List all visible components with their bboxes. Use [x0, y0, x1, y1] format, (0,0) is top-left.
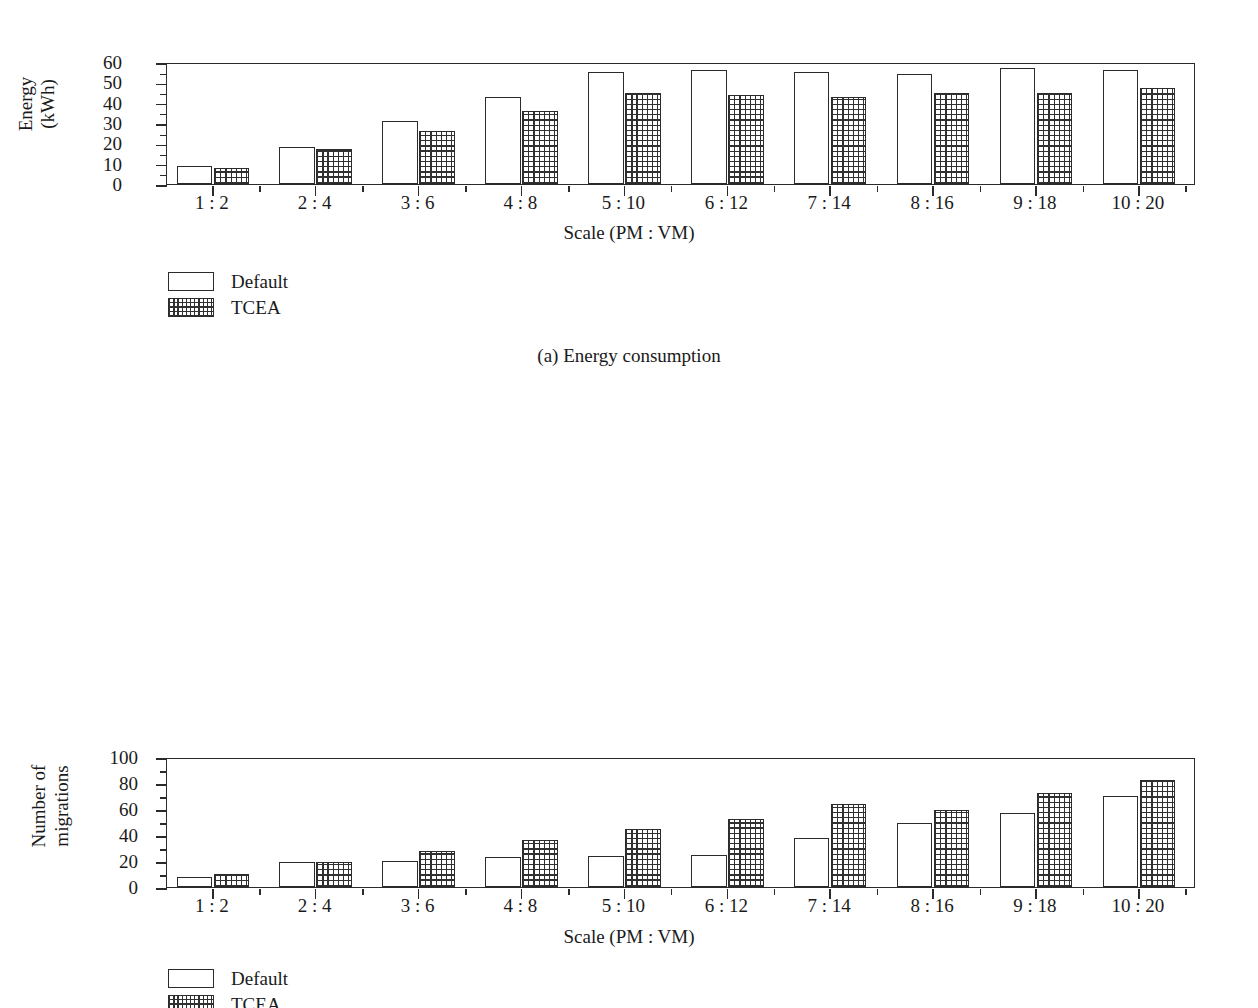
panel-c-number-of-host-shutdowns: Number of host shutdowns 010203040506070… [0, 680, 1258, 1008]
bar-tcea [831, 97, 867, 184]
x-ticklabel: 7 : 14 [808, 192, 851, 214]
bar-tcea [522, 111, 558, 184]
y-tick-minor [160, 94, 167, 95]
y-tick-major [156, 104, 167, 106]
y-ticklabel: 40 [103, 93, 122, 115]
y-ticklabel: 20 [103, 133, 122, 155]
y-ticklabels-a: 0102030405060 [60, 60, 122, 185]
legend-a: Default TCEA [168, 270, 288, 322]
bar-tcea [728, 95, 764, 184]
y-tick-major [156, 84, 167, 86]
bar-default [588, 72, 624, 184]
y-tick-minor [160, 175, 167, 176]
bar-tcea [625, 93, 661, 185]
y-tick-minor [160, 114, 167, 115]
x-ticklabel: 2 : 4 [298, 192, 332, 214]
x-ticklabel: 9 : 18 [1013, 192, 1056, 214]
bar-tcea [214, 168, 250, 184]
y-tick-major [156, 124, 167, 126]
y-ticklabel: 10 [103, 154, 122, 176]
legend-swatch-default-icon [168, 272, 214, 291]
x-ticklabel: 6 : 12 [705, 192, 748, 214]
x-ticklabel: 1 : 2 [195, 192, 229, 214]
bar-tcea [1037, 93, 1073, 185]
y-ticklabel: 0 [113, 174, 123, 196]
y-ticklabel: 30 [103, 113, 122, 135]
panel-a-energy-consumption: Energy (kWh) 0102030405060 1 : 22 : 43 :… [0, 0, 1258, 375]
caption-a: (a) Energy consumption [0, 345, 1258, 367]
legend-row-default-a: Default [168, 270, 288, 293]
legend-label-default: Default [231, 271, 288, 293]
bar-tcea [1140, 88, 1176, 184]
plot-area-a [166, 63, 1195, 185]
x-ticklabels-a: 1 : 22 : 43 : 64 : 85 : 106 : 127 : 148 … [166, 192, 1195, 220]
y-ticklabel: 60 [103, 52, 122, 74]
bar-default [382, 121, 418, 184]
legend-swatch-tcea-icon [168, 298, 214, 317]
figure-three-panel-bar-charts: Energy (kWh) 0102030405060 1 : 22 : 43 :… [0, 0, 1258, 1008]
legend-label-tcea: TCEA [231, 297, 281, 319]
bar-tcea [934, 93, 970, 185]
panel-b-number-of-migrations: Number of migrations 020406080100 1 : 22… [0, 375, 1258, 680]
bar-default [177, 166, 213, 184]
bar-default [794, 72, 830, 184]
x-ticklabel: 10 : 20 [1111, 192, 1164, 214]
y-axis-title-a: Energy (kWh) [15, 44, 59, 164]
y-tick-minor [160, 135, 167, 136]
x-ticklabel: 5 : 10 [602, 192, 645, 214]
bar-tcea [316, 149, 352, 184]
bar-default [691, 70, 727, 184]
legend-row-tcea-a: TCEA [168, 296, 288, 319]
y-tick-major [156, 63, 167, 65]
x-ticklabel: 4 : 8 [504, 192, 538, 214]
y-tick-major [156, 165, 167, 167]
y-tick-minor [160, 74, 167, 75]
y-ticklabel: 50 [103, 72, 122, 94]
bar-default [1000, 68, 1036, 184]
y-tick-minor [160, 155, 167, 156]
y-tick-major [156, 145, 167, 147]
x-ticklabel: 8 : 16 [910, 192, 953, 214]
y-tick-major [156, 185, 167, 187]
bar-default [1103, 70, 1139, 184]
bar-default [897, 74, 933, 184]
bar-default [485, 97, 521, 184]
bar-default [279, 147, 315, 184]
x-ticklabel: 3 : 6 [401, 192, 435, 214]
bar-tcea [419, 131, 455, 184]
x-axis-title-a: Scale (PM : VM) [0, 222, 1258, 244]
